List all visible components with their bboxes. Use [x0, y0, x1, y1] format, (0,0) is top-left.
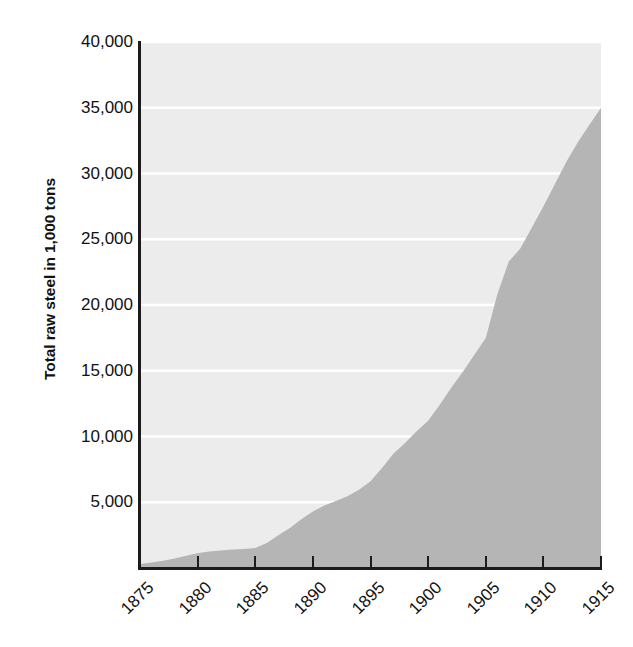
x-axis-tick-mark — [600, 556, 602, 568]
y-axis-tick-label: 30,000 — [0, 164, 133, 184]
x-axis-tick-mark — [312, 556, 314, 568]
y-axis-tick-label: 40,000 — [0, 32, 133, 52]
y-axis-tick-label: 10,000 — [0, 427, 133, 447]
x-axis-tick-mark — [254, 556, 256, 568]
area-series-svg — [140, 42, 601, 568]
area-series-path — [140, 108, 601, 568]
y-axis-tick-label-group: 5,00010,00015,00020,00025,00030,00035,00… — [0, 0, 133, 647]
y-axis-tick-label: 15,000 — [0, 361, 133, 381]
plot-area — [140, 42, 601, 568]
x-axis-tick-mark — [197, 556, 199, 568]
x-axis-tick-mark — [542, 556, 544, 568]
y-axis-tick-label: 25,000 — [0, 229, 133, 249]
y-axis-tick-label: 35,000 — [0, 98, 133, 118]
y-axis-line — [138, 41, 141, 570]
y-axis-tick-label: 20,000 — [0, 295, 133, 315]
y-axis-tick-label: 5,000 — [0, 492, 133, 512]
x-axis-tick-mark — [427, 556, 429, 568]
x-axis-tick-mark — [370, 556, 372, 568]
x-axis-tick-mark — [139, 556, 141, 568]
x-axis-tick-mark — [485, 556, 487, 568]
chart-container: Total raw steel in 1,000 tons 5,00010,00… — [0, 0, 633, 647]
